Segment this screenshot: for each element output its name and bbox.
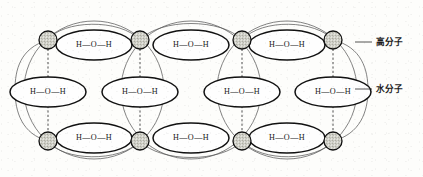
water-molecule-label: H—O—H — [269, 133, 305, 142]
water-label: 水分子 — [376, 83, 403, 94]
water-molecule-label: H—O—H — [122, 87, 158, 96]
callout-polymer: 高分子 — [355, 36, 403, 47]
water-molecule-label: H—O—H — [76, 133, 112, 142]
water-molecule: H—O—H — [153, 30, 229, 60]
polymer-node — [233, 31, 251, 49]
polymer-label: 高分子 — [376, 36, 403, 47]
water-molecule-label: H—O—H — [224, 87, 260, 96]
water-molecule-label: H—O—H — [315, 87, 351, 96]
water-molecule: H—O—H — [56, 123, 132, 153]
water-molecule: H—O—H — [102, 77, 178, 107]
water-molecule-group: H—O—H H—O—H H—O—H H—O—H H—O—H H—O—H — [10, 30, 371, 153]
water-molecule-label: H—O—H — [173, 133, 209, 142]
water-molecule-label: H—O—H — [173, 40, 209, 49]
water-molecule: H—O—H — [295, 77, 371, 107]
water-molecule-label: H—O—H — [76, 40, 112, 49]
water-molecule-label: H—O—H — [30, 87, 66, 96]
water-molecule: H—O—H — [10, 77, 86, 107]
polymer-node — [324, 132, 342, 150]
polymer-node — [131, 132, 149, 150]
water-molecule-label: H—O—H — [269, 40, 305, 49]
water-molecule: H—O—H — [249, 30, 325, 60]
water-molecule: H—O—H — [153, 123, 229, 153]
polymer-node — [131, 31, 149, 49]
polymer-node — [324, 31, 342, 49]
water-molecule: H—O—H — [249, 123, 325, 153]
polymer-node — [39, 132, 57, 150]
polymer-node — [233, 132, 251, 150]
molecular-diagram: H—O—H H—O—H H—O—H H—O—H H—O—H H—O—H — [0, 0, 423, 177]
water-molecule: H—O—H — [204, 77, 280, 107]
figure-canvas: H—O—H H—O—H H—O—H H—O—H H—O—H H—O—H — [0, 0, 423, 177]
polymer-node — [39, 31, 57, 49]
water-molecule: H—O—H — [56, 30, 132, 60]
